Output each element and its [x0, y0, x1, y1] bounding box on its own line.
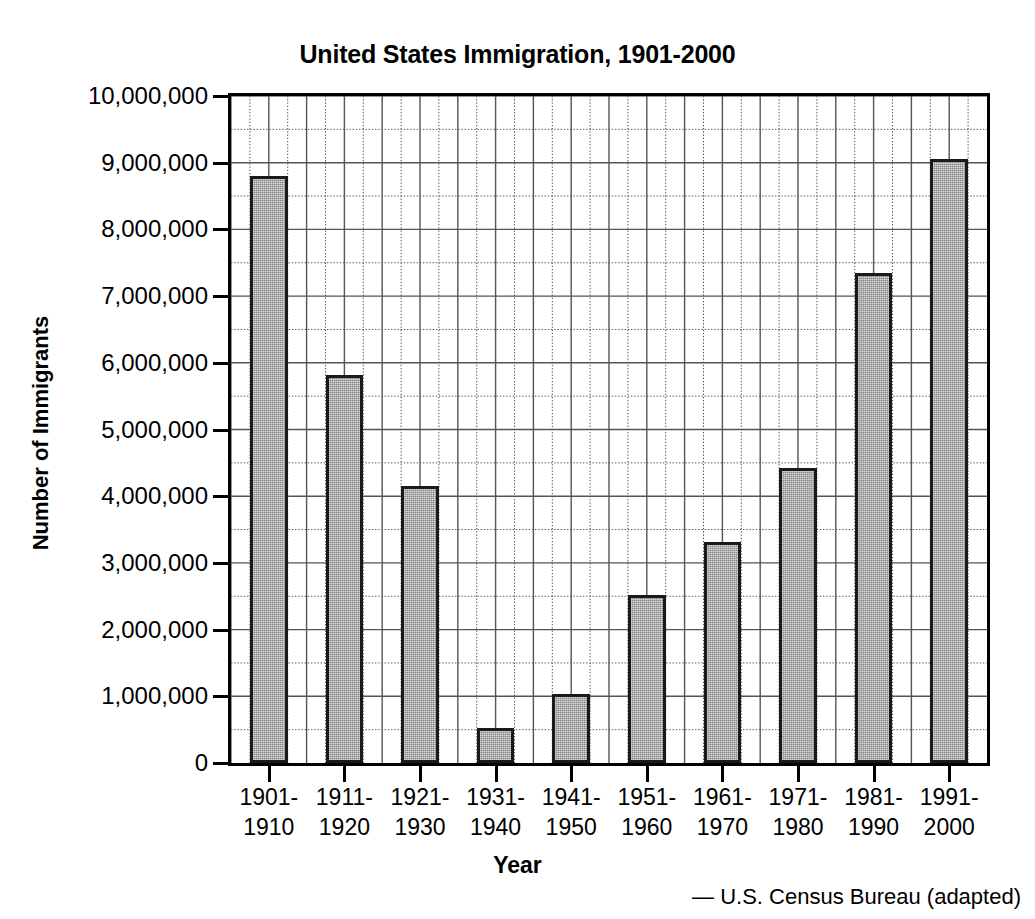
source-attribution: — U.S. Census Bureau (adapted)	[692, 884, 1021, 910]
y-tick-mark	[213, 95, 231, 98]
bar	[250, 176, 288, 763]
bar	[552, 694, 590, 763]
y-tick-label: 1,000,000	[8, 684, 208, 708]
y-tick-label: 10,000,000	[8, 84, 208, 108]
bar	[930, 159, 968, 763]
y-tick-mark	[213, 762, 231, 765]
y-tick-mark	[213, 495, 231, 498]
y-tick-label: 7,000,000	[8, 284, 208, 308]
x-axis-title: Year	[0, 852, 1035, 879]
x-tick-mark	[570, 766, 573, 782]
bar	[326, 375, 364, 763]
chart-figure: United States Immigration, 1901-2000 Num…	[0, 0, 1035, 919]
x-tick-label: 1991-2000	[894, 782, 1004, 842]
bar	[855, 273, 893, 763]
x-tick-mark	[419, 766, 422, 782]
y-tick-mark	[213, 629, 231, 632]
y-tick-mark	[213, 429, 231, 432]
x-tick-mark	[343, 766, 346, 782]
plot-area	[228, 93, 990, 766]
bar	[401, 486, 439, 763]
y-tick-label: 3,000,000	[8, 551, 208, 575]
bar	[704, 542, 742, 763]
x-tick-mark	[948, 766, 951, 782]
y-tick-mark	[213, 295, 231, 298]
x-tick-mark	[495, 766, 498, 782]
x-tick-mark	[797, 766, 800, 782]
x-axis-tick-labels: 1901-19101911-19201921-19301931-19401941…	[228, 782, 990, 854]
y-tick-label: 9,000,000	[8, 151, 208, 175]
y-tick-label: 4,000,000	[8, 484, 208, 508]
x-tick-mark	[873, 766, 876, 782]
y-tick-mark	[213, 228, 231, 231]
x-tick-label-line: 1991-	[894, 782, 1004, 812]
bar	[477, 728, 515, 763]
y-tick-label: 0	[8, 751, 208, 775]
x-tick-mark	[721, 766, 724, 782]
x-tick-label-line: 2000	[894, 812, 1004, 842]
y-tick-mark	[213, 562, 231, 565]
y-axis-tick-labels: 01,000,0002,000,0003,000,0004,000,0005,0…	[0, 0, 208, 919]
x-tick-mark	[268, 766, 271, 782]
y-tick-mark	[213, 162, 231, 165]
bar-series	[231, 96, 987, 763]
bar	[779, 468, 817, 763]
y-tick-label: 8,000,000	[8, 217, 208, 241]
y-tick-mark	[213, 695, 231, 698]
bar	[628, 595, 666, 763]
y-tick-label: 6,000,000	[8, 351, 208, 375]
x-tick-mark	[646, 766, 649, 782]
y-tick-label: 2,000,000	[8, 618, 208, 642]
y-tick-label: 5,000,000	[8, 418, 208, 442]
y-tick-mark	[213, 362, 231, 365]
